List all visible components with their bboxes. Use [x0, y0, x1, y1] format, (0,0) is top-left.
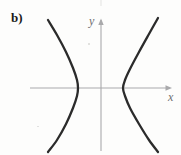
hyperbola-right-branch — [123, 18, 158, 152]
part-label: b) — [11, 11, 23, 24]
scan-speck — [37, 126, 39, 127]
y-axis-arrow-icon — [98, 19, 103, 26]
x-axis-label: x — [168, 91, 173, 103]
y-axis-label: y — [89, 15, 94, 27]
hyperbola-left-branch — [48, 20, 78, 152]
figure-container: b) y x — [0, 0, 181, 155]
scan-speck — [88, 43, 90, 45]
